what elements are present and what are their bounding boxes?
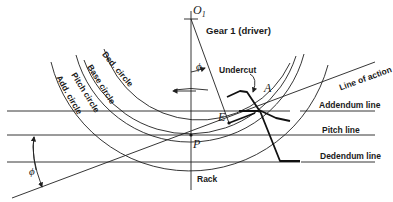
undercut-leader [250,74,255,92]
addendum-line-label: Addendum line [319,101,380,110]
o1-label: O1 [193,4,206,19]
point-p-label: P [193,138,200,150]
point-e [227,121,230,124]
phi-label-left: ϕ [29,166,35,177]
point-a-dot [258,110,261,113]
dedendum-line-label: Dedendum line [320,152,381,161]
pitch-line-label: Pitch line [322,126,360,135]
point-e-label: E [218,111,225,123]
point-a-label: A [264,82,271,94]
undercut-label: Undercut [219,66,256,75]
o1-label-subscript: 1 [202,10,206,19]
gear-title: Gear 1 (driver) [206,26,271,36]
phi-label-top: ϕ [196,61,202,72]
rack-tooth-profile [239,111,300,161]
rack-label: Rack [197,175,217,184]
o1-label-letter: O [193,3,202,17]
